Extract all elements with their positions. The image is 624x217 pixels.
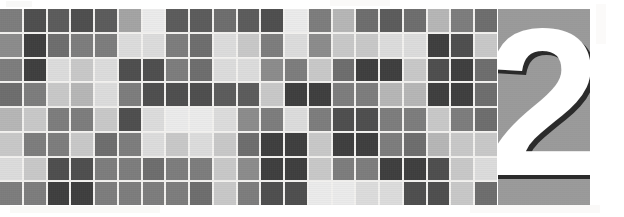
mosaic-cell	[71, 9, 93, 32]
mosaic-cell	[428, 59, 450, 82]
chapter-number-panel: 2 2	[498, 9, 590, 205]
mosaic-cell	[333, 59, 355, 82]
mosaic-cell	[143, 59, 165, 82]
mosaic-cell	[356, 133, 378, 156]
mosaic-cell	[143, 182, 165, 205]
mosaic-cell	[0, 158, 22, 181]
mosaic-cell	[71, 83, 93, 106]
mosaic-cell	[309, 83, 331, 106]
mosaic-cell	[261, 83, 283, 106]
mosaic-cell	[309, 34, 331, 57]
mosaic-cell	[309, 158, 331, 181]
mosaic-cell	[404, 34, 426, 57]
mosaic-cell	[24, 9, 46, 32]
mosaic-cell	[24, 133, 46, 156]
paper-speckle-bottom-right	[470, 205, 600, 213]
mosaic-cell	[166, 133, 188, 156]
mosaic-cell	[404, 158, 426, 181]
grayscale-mosaic-grid	[0, 9, 497, 205]
mosaic-cell	[428, 158, 450, 181]
mosaic-cell	[119, 108, 141, 131]
mosaic-cell	[285, 9, 307, 32]
mosaic-cell	[48, 158, 70, 181]
mosaic-cell	[71, 133, 93, 156]
mosaic-cell	[0, 133, 22, 156]
mosaic-cell	[428, 182, 450, 205]
mosaic-cell	[238, 59, 260, 82]
mosaic-cell	[404, 133, 426, 156]
mosaic-cell	[0, 59, 22, 82]
mosaic-cell	[143, 83, 165, 106]
mosaic-cell	[356, 182, 378, 205]
mosaic-cell	[356, 34, 378, 57]
mosaic-cell	[48, 133, 70, 156]
mosaic-cell	[475, 9, 497, 32]
mosaic-cell	[380, 158, 402, 181]
mosaic-cell	[214, 133, 236, 156]
mosaic-cell	[143, 9, 165, 32]
mosaic-cell	[404, 59, 426, 82]
mosaic-cell	[380, 182, 402, 205]
mosaic-cell	[119, 182, 141, 205]
mosaic-cell	[428, 9, 450, 32]
mosaic-cell	[451, 133, 473, 156]
mosaic-cell	[95, 182, 117, 205]
mosaic-cell	[214, 108, 236, 131]
mosaic-cell	[475, 158, 497, 181]
mosaic-cell	[71, 34, 93, 57]
mosaic-cell	[214, 158, 236, 181]
mosaic-cell	[0, 108, 22, 131]
mosaic-cell	[285, 158, 307, 181]
mosaic-cell	[333, 182, 355, 205]
mosaic-cell	[475, 83, 497, 106]
mosaic-cell	[71, 158, 93, 181]
mosaic-cell	[24, 34, 46, 57]
mosaic-cell	[48, 182, 70, 205]
mosaic-cell	[166, 9, 188, 32]
chapter-number-glyph: 2 2	[498, 9, 590, 205]
mosaic-cell	[214, 182, 236, 205]
mosaic-cell	[48, 59, 70, 82]
mosaic-cell	[166, 59, 188, 82]
mosaic-cell	[285, 83, 307, 106]
mosaic-cell	[95, 108, 117, 131]
mosaic-cell	[143, 108, 165, 131]
mosaic-cell	[380, 133, 402, 156]
mosaic-cell	[309, 9, 331, 32]
mosaic-cell	[356, 59, 378, 82]
mosaic-cell	[451, 108, 473, 131]
paper-speckle-bottom-left	[10, 206, 160, 213]
mosaic-cell	[24, 158, 46, 181]
mosaic-cell	[309, 108, 331, 131]
mosaic-cell	[71, 59, 93, 82]
mosaic-cell	[285, 108, 307, 131]
mosaic-cell	[119, 59, 141, 82]
mosaic-cell	[238, 133, 260, 156]
mosaic-cell	[428, 83, 450, 106]
mosaic-cell	[261, 59, 283, 82]
mosaic-cell	[261, 158, 283, 181]
mosaic-cell	[261, 108, 283, 131]
mosaic-cell	[214, 59, 236, 82]
mosaic-cell	[451, 34, 473, 57]
mosaic-cell	[333, 158, 355, 181]
mosaic-cell	[333, 9, 355, 32]
mosaic-cell	[451, 182, 473, 205]
mosaic-cell	[95, 34, 117, 57]
mosaic-cell	[190, 158, 212, 181]
mosaic-cell	[24, 108, 46, 131]
mosaic-cell	[261, 9, 283, 32]
mosaic-cell	[475, 108, 497, 131]
mosaic-cell	[333, 133, 355, 156]
mosaic-cell	[309, 133, 331, 156]
mosaic-cell	[190, 83, 212, 106]
mosaic-cell	[119, 83, 141, 106]
mosaic-cell	[238, 182, 260, 205]
mosaic-cell	[71, 182, 93, 205]
mosaic-cell	[475, 133, 497, 156]
mosaic-cell	[48, 108, 70, 131]
mosaic-cell	[404, 9, 426, 32]
paper-speckle-right-edge	[596, 4, 606, 44]
mosaic-cell	[380, 59, 402, 82]
mosaic-cell	[380, 83, 402, 106]
